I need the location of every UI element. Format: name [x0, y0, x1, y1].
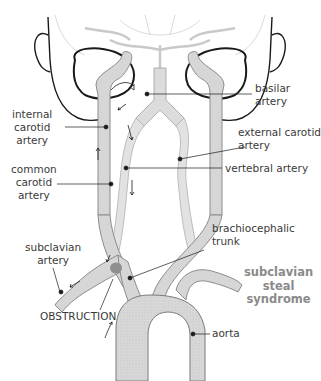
- label-line: brachiocephalic: [212, 222, 295, 235]
- label-aorta: aorta: [212, 327, 240, 340]
- label-line: trunk: [212, 235, 295, 248]
- label-obstruction: OBSTRUCTION: [40, 310, 116, 323]
- aorta-vessel: [116, 295, 205, 381]
- label-line: artery: [12, 134, 52, 147]
- internal-carotid-artery-right-vessel: [188, 52, 224, 215]
- label-line: artery: [238, 139, 321, 152]
- label-line: subclavian: [25, 241, 81, 254]
- basilar-artery-vessel: [136, 68, 184, 126]
- subclavian-artery-right-vessel: [176, 270, 242, 300]
- title-line: steal: [244, 280, 313, 294]
- label-line: carotid: [12, 121, 52, 134]
- label-brachiocephalic-trunk: brachiocephalic trunk: [212, 222, 295, 248]
- label-line: artery: [25, 254, 81, 267]
- title-line: syndrome: [244, 293, 313, 307]
- label-line: external carotid: [238, 126, 321, 139]
- vertebral-artery-right-vessel: [176, 118, 198, 255]
- label-line: artery: [255, 95, 290, 108]
- label-internal-carotid-artery: internal carotid artery: [12, 108, 52, 147]
- figure-title: subclavian steal syndrome: [244, 266, 313, 307]
- label-subclavian-artery: subclavian artery: [25, 241, 81, 267]
- label-line: common: [11, 163, 57, 176]
- label-line: artery: [11, 189, 57, 202]
- title-line: subclavian: [244, 266, 313, 280]
- label-common-carotid-artery: common carotid artery: [11, 163, 57, 202]
- label-line: carotid: [11, 176, 57, 189]
- label-external-carotid-artery: external carotid artery: [238, 126, 321, 152]
- label-basilar-artery: basilar artery: [255, 82, 290, 108]
- obstruction-marker: [110, 263, 122, 274]
- label-vertebral-artery: vertebral artery: [225, 162, 308, 175]
- label-line: internal: [12, 108, 52, 121]
- vertebral-artery-left-vessel: [110, 118, 144, 255]
- label-line: basilar: [255, 82, 290, 95]
